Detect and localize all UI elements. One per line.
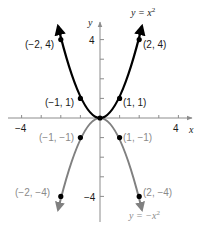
point-origin xyxy=(97,115,102,120)
x-tick-label-neg4: −4 xyxy=(15,123,27,134)
point-2-neg4 xyxy=(137,194,142,199)
point-neg1-1 xyxy=(78,96,83,101)
label-neg2-4: (−2, 4) xyxy=(25,39,54,50)
label-neg1-1: (−1, 1) xyxy=(45,97,74,108)
label-neg2-neg4: (−2, −4) xyxy=(15,187,50,198)
equation-upper: y = x2 xyxy=(130,6,156,18)
point-1-neg1 xyxy=(117,135,122,140)
label-2-neg4: (2, −4) xyxy=(143,187,172,198)
x-axis-label: x xyxy=(188,124,194,135)
equation-lower-exponent: 2 xyxy=(156,209,160,217)
equation-upper-base: y = x xyxy=(130,7,152,18)
point-neg2-neg4 xyxy=(58,194,63,199)
point-neg1-neg1 xyxy=(78,135,83,140)
label-1-1: (1, 1) xyxy=(123,97,146,108)
label-2-4: (2, 4) xyxy=(143,39,166,50)
label-1-neg1: (1, −1) xyxy=(123,132,152,143)
y-axis-label: y xyxy=(87,17,93,28)
equation-lower: y = −x2 xyxy=(128,209,160,221)
equation-upper-exponent: 2 xyxy=(152,6,156,14)
point-neg2-4 xyxy=(58,37,63,42)
x-tick-label-4: 4 xyxy=(173,123,179,134)
equation-lower-base: y = −x xyxy=(128,210,157,221)
label-neg1-neg1: (−1, −1) xyxy=(39,132,74,143)
y-tick-label-neg4: −4 xyxy=(84,192,96,203)
y-tick-label-4: 4 xyxy=(89,35,95,46)
point-2-4 xyxy=(137,37,142,42)
parabola-graph: −4 4 x 4 −4 y xyxy=(0,0,202,232)
point-1-1 xyxy=(117,96,122,101)
